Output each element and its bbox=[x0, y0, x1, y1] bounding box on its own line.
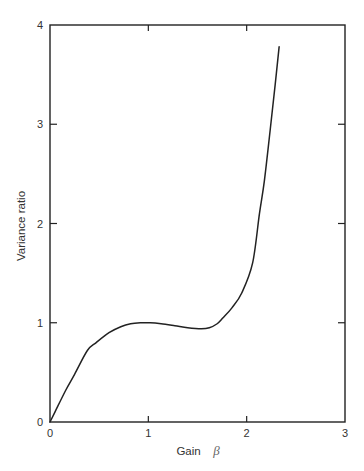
x-axis-label-group: Gain β bbox=[176, 441, 220, 458]
y-tick-label: 1 bbox=[37, 317, 43, 329]
x-axis-label: Gain bbox=[176, 445, 200, 457]
y-tick-label: 2 bbox=[37, 218, 43, 230]
chart: 0123 01234 Variance ratio Gain β bbox=[0, 0, 364, 471]
y-tick-label: 3 bbox=[37, 118, 43, 130]
x-tick-label: 2 bbox=[244, 427, 250, 439]
plot-frame bbox=[50, 25, 345, 422]
axis-ticks bbox=[50, 25, 345, 422]
x-axis-symbol: β bbox=[212, 443, 220, 458]
x-tick-labels: 0123 bbox=[47, 427, 348, 439]
y-tick-labels: 01234 bbox=[37, 19, 43, 428]
y-tick-label: 0 bbox=[37, 416, 43, 428]
x-tick-label: 0 bbox=[47, 427, 53, 439]
y-axis-label: Variance ratio bbox=[15, 191, 27, 261]
x-tick-label: 1 bbox=[145, 427, 151, 439]
data-curve bbox=[50, 47, 279, 422]
x-tick-label: 3 bbox=[342, 427, 348, 439]
y-tick-label: 4 bbox=[37, 19, 43, 31]
